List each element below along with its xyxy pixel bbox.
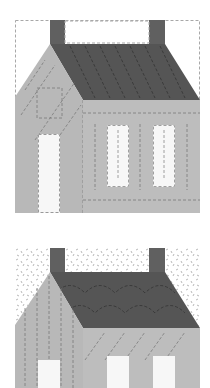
- front-wall: [83, 100, 200, 213]
- door: [38, 134, 60, 213]
- house-illustration-bottom: [15, 248, 200, 388]
- chimney-right: [149, 20, 165, 44]
- house-block-top: [15, 20, 200, 213]
- house-block-bottom: [15, 248, 200, 388]
- chimney-left: [50, 20, 65, 44]
- house-illustration-top: [15, 20, 200, 213]
